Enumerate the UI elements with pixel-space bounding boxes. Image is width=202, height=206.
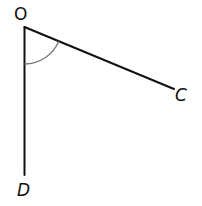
angle-arc-doc [25, 41, 59, 64]
label-d: D [17, 180, 30, 200]
label-c: C [175, 85, 187, 105]
angle-diagram: O C D [0, 0, 202, 206]
label-o: O [14, 4, 27, 24]
segment-oc [25, 27, 175, 89]
